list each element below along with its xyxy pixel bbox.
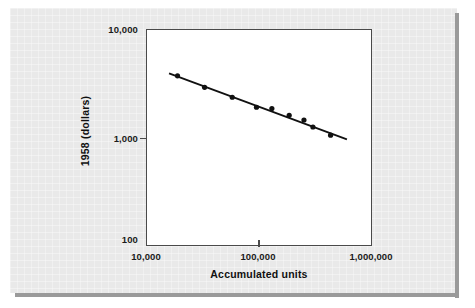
y-tick-label-1000: 1,000 [86,133,138,144]
figure-page: 10,000 1,000 100 10,000 100,000 1,000,00… [0,0,475,308]
x-tick-label-1000000: 1,000,000 [333,251,409,262]
card-shadow-right [455,13,459,298]
card-shadow-bottom [15,293,459,297]
x-tick-label-100000: 100,000 [220,251,296,262]
data-point-marker [175,73,180,78]
y-axis-title: 1958 (dollars) [79,71,91,191]
data-point-marker [254,105,259,110]
data-point-marker [328,133,333,138]
x-tick-label-10000: 10,000 [108,251,184,262]
x-axis-title: Accumulated units [146,268,372,280]
data-point-marker [287,113,292,118]
data-point-marker [269,106,274,111]
y-tick-label-100: 100 [86,234,138,245]
data-point-marker [202,85,207,90]
data-point-marker [310,124,315,129]
data-point-marker [301,117,306,122]
y-tick-label-10000: 10,000 [86,24,138,35]
chart-data-layer [146,29,372,246]
data-point-marker [230,95,235,100]
